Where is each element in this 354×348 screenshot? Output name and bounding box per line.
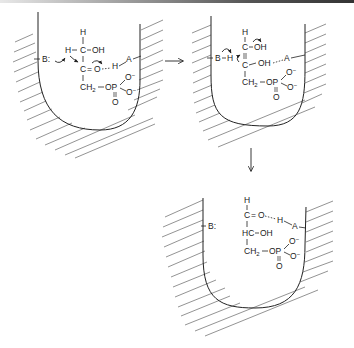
panel-1: B: H H C OH C = O H A CH2 OP O− O− O (13, 12, 163, 158)
atom-o-double: O (273, 92, 280, 102)
atom-oh: OH (254, 42, 267, 52)
double-bond: = (87, 64, 92, 74)
atom-o-bottom: O− (290, 251, 301, 261)
atom-o-bottom: O− (126, 87, 137, 97)
atom-hbond-h: H (112, 61, 118, 71)
atom-oh2: OH (258, 58, 271, 68)
atom-h: H (65, 45, 71, 55)
atom-op: OP (105, 82, 118, 92)
mechanism-diagram: B: H H C OH C = O H A CH2 OP O− O− O (0, 0, 354, 348)
acid-label: A (292, 221, 298, 231)
enzyme-hatch-right (302, 24, 326, 103)
atom-o-top: O− (125, 72, 136, 82)
atom-ch2: CH2 (244, 246, 260, 257)
atom-c1: C (244, 210, 250, 220)
double-bond: = (251, 210, 256, 220)
atom-top-h: H (80, 27, 86, 37)
atom-o-top: O− (286, 67, 297, 77)
atom-op: OP (269, 246, 282, 256)
atom-ch2: CH2 (80, 82, 96, 93)
atom-c2: C (80, 64, 86, 74)
panel-2: B H H C OH C OH A CH2 OP O− O− O (192, 16, 326, 147)
atom-o-bottom: O− (287, 82, 298, 92)
atom-hbond-h: H (277, 215, 283, 225)
atom-c2: C (242, 60, 248, 70)
atom-o: O (94, 64, 101, 74)
atom-c1: C (80, 45, 86, 55)
atom-top-h: H (242, 27, 248, 37)
atom-o-double: O (112, 97, 119, 107)
atom-oh: OH (92, 45, 105, 55)
atom-op: OP (266, 77, 279, 87)
panel-3: B: H C = O H A HC OH CH2 OP O− O− O (162, 195, 333, 336)
curved-arrow-base (55, 58, 65, 62)
acid-label: A (284, 53, 290, 63)
atom-oh: OH (260, 228, 273, 238)
curved-arrow-ch (70, 56, 78, 62)
atom-c1: C (242, 42, 248, 52)
acid-label: A (126, 54, 132, 64)
atom-ch2: CH2 (242, 77, 258, 88)
atom-hc: HC (242, 228, 254, 238)
curved-arrow-cc (237, 55, 240, 62)
base-label: B: (208, 221, 216, 231)
atom-top-h: H (244, 195, 250, 205)
atom-o-top: O− (289, 236, 300, 246)
base-label: B (215, 53, 221, 63)
atom-o-double: O (276, 261, 283, 271)
atom-o: O (258, 210, 265, 220)
enzyme-hatch-right (128, 20, 163, 110)
base-h: H (227, 53, 233, 63)
base-label: B: (42, 54, 50, 64)
